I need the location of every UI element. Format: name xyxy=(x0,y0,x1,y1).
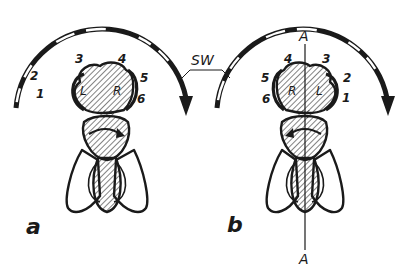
eye-number-b-1: 1 xyxy=(342,92,350,104)
eye-number-a-3: 3 xyxy=(75,53,83,65)
eye-number-a-6: 6 xyxy=(137,93,145,105)
eye-number-b-2: 2 xyxy=(343,72,351,84)
eye-number-a-4: 4 xyxy=(118,53,126,65)
eye-number-b-4: 4 xyxy=(284,53,292,65)
eye-number-a-1: 1 xyxy=(36,88,44,100)
abdomen-b xyxy=(291,158,318,212)
eye-number-b-3: 3 xyxy=(322,53,330,65)
eye-number-b-6: 6 xyxy=(262,93,270,105)
axis-label-top: A xyxy=(299,29,309,43)
eye-number-a-5: 5 xyxy=(140,72,148,84)
eye-label-right-a: R xyxy=(113,85,121,97)
fly-rotation-diagram xyxy=(0,0,403,274)
panel-a xyxy=(16,29,193,212)
arc-arrowhead-b xyxy=(381,96,395,116)
abdomen-a xyxy=(93,158,120,212)
eye-number-b-5: 5 xyxy=(261,72,269,84)
eye-label-left-b: R xyxy=(288,85,296,97)
axis-label-bottom: A xyxy=(299,252,309,266)
thorax-a xyxy=(83,116,129,160)
sw-label: SW xyxy=(191,53,214,67)
fly-a xyxy=(67,63,147,212)
eye-label-left-a: L xyxy=(80,85,87,97)
panel-label-a: a xyxy=(26,216,41,238)
panel-b xyxy=(217,29,395,250)
head-b xyxy=(277,63,336,113)
arc-arrowhead-a xyxy=(179,96,193,116)
eye-label-right-b: L xyxy=(316,85,323,97)
eye-number-a-2: 2 xyxy=(30,70,38,82)
panel-label-b: b xyxy=(227,214,243,236)
fly-b xyxy=(267,63,343,212)
